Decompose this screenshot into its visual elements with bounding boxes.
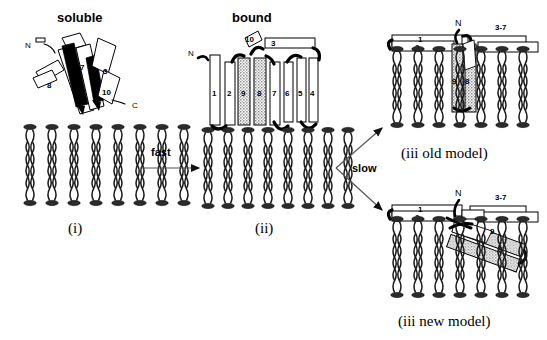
soluble-label-C: C <box>132 101 138 110</box>
slow-arrow: slow <box>336 128 382 210</box>
panel-label-i: (i) <box>68 220 82 237</box>
panel-bound: bound N 1 <box>188 10 354 237</box>
new-surface-label-3-7: 3-7 <box>495 193 507 202</box>
bound-strand-label-7: 7 <box>272 89 277 98</box>
panel-label-iii-old: (iii old model) <box>401 145 488 162</box>
bound-strand-label-9: 9 <box>241 89 246 98</box>
bound-strand-label-1: 1 <box>212 89 217 98</box>
bound-top-label-3: 3 <box>271 39 276 48</box>
soluble-strand-label-7: 7 <box>80 63 85 72</box>
old-model-panel: N 1 2 3-7 9 8 (iii old model) <box>388 18 538 162</box>
bound-top-label-10: 10 <box>245 35 254 44</box>
bound-strand-label-6: 6 <box>285 89 290 98</box>
soluble-title: soluble <box>57 10 103 25</box>
bound-label-N: N <box>188 49 194 58</box>
diagram-svg: soluble N C <box>0 0 547 340</box>
new-inserted-label-9: 9 <box>490 227 495 236</box>
soluble-protein-ribbon: N C 8 7 3 10 <box>25 33 138 115</box>
fast-arrow-label: fast <box>151 146 171 158</box>
bound-strand-label-2: 2 <box>227 89 232 98</box>
bound-title: bound <box>232 10 272 25</box>
bound-protein-strands: N 1 2 9 8 7 6 5 4 10 3 <box>188 31 319 129</box>
soluble-strand-label-8: 8 <box>47 81 52 90</box>
old-label-N: N <box>455 18 462 28</box>
new-model-panel: N 1 2 3-7 9 8 (iii new model) <box>388 188 538 330</box>
old-surface-label-3-7: 3-7 <box>495 23 507 32</box>
bound-strand-label-4: 4 <box>310 89 315 98</box>
new-strand-3-7-shape-b <box>478 212 538 222</box>
bound-strand-label-8: 8 <box>257 89 262 98</box>
new-label-N: N <box>455 188 462 198</box>
old-strand-3-7-shape-b <box>478 42 538 52</box>
soluble-strand-label-10: 10 <box>102 88 111 97</box>
figure-canvas: soluble N C <box>0 0 547 340</box>
soluble-strand-label-3: 3 <box>103 67 108 76</box>
membrane-i <box>24 124 190 205</box>
bound-strand-label-5: 5 <box>298 89 303 98</box>
panel-soluble: soluble N C <box>24 10 190 237</box>
membrane-ii <box>202 127 354 208</box>
soluble-label-N: N <box>25 41 31 50</box>
fast-arrow: fast <box>140 146 199 168</box>
slow-arrow-label: slow <box>352 162 377 174</box>
panel-label-iii-new: (iii new model) <box>398 313 490 330</box>
old-inserted-label-8: 8 <box>465 77 470 86</box>
panel-label-ii: (ii) <box>255 220 273 237</box>
